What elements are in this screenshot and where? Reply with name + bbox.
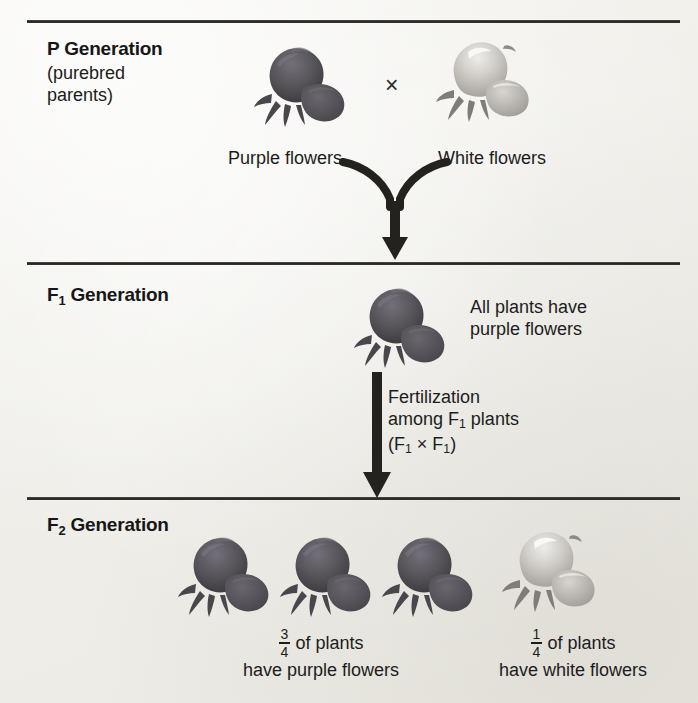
fraction-numerator: 3 <box>279 627 291 641</box>
f1-generation-heading: F1 Generation <box>47 284 169 308</box>
f1-heading-prefix: F <box>47 284 58 305</box>
fertilization-line3-b: ) <box>450 434 456 454</box>
fertilization-line3-a: (F <box>388 434 405 454</box>
flower-f2-white-1 <box>500 530 604 614</box>
f2-heading-suffix: Generation <box>65 514 168 535</box>
f2-generation-heading: F2 Generation <box>47 514 169 538</box>
fertilization-line3-mid: × F <box>412 434 444 454</box>
f2-white-trait-line: have white flowers <box>468 660 678 682</box>
p-generation-subtitle: (purebred parents) <box>47 63 125 107</box>
p-heading-prefix: P <box>47 38 59 59</box>
fertilization-line2-b: plants <box>466 409 519 429</box>
f2-purple-proportion-caption: 3 4 of plants have purple flowers <box>206 628 436 682</box>
f2-white-proportion-caption: 1 4 of plants have white flowers <box>468 628 678 682</box>
flower-p-purple <box>252 44 356 128</box>
f2-heading-prefix: F <box>47 514 58 535</box>
fraction-one-quarter: 1 4 <box>531 627 543 659</box>
label-f1-result: All plants have purple flowers <box>470 296 587 341</box>
fraction-denominator: 4 <box>531 645 543 659</box>
fertilization-line2-a: among F <box>388 409 459 429</box>
fraction-denominator: 4 <box>279 645 291 659</box>
f2-purple-trait-line: have purple flowers <box>206 660 436 682</box>
fraction-numerator: 1 <box>531 627 543 641</box>
divider-top <box>27 20 680 23</box>
fraction-three-quarters: 3 4 <box>279 627 291 659</box>
p-heading-suffix: Generation <box>59 38 162 59</box>
fertilization-line3-sub1: 1 <box>405 442 412 456</box>
label-fertilization-note: Fertilizationamong F1 plants(F1 × F1) <box>388 386 519 457</box>
flower-f1-purple <box>352 285 456 369</box>
flower-f2-purple-3 <box>380 534 484 618</box>
f2-white-fraction-line: 1 4 of plants <box>468 628 678 660</box>
flower-f2-purple-1 <box>176 534 280 618</box>
f2-purple-fraction-line: 3 4 of plants <box>206 628 436 660</box>
f1-heading-suffix: Generation <box>65 284 168 305</box>
flower-f2-purple-2 <box>278 534 382 618</box>
f2-purple-of-plants: of plants <box>295 633 363 655</box>
arrow-p-to-f1 <box>330 155 460 263</box>
fertilization-line2-subscript: 1 <box>459 418 466 432</box>
cross-symbol-p: × <box>385 72 398 99</box>
fertilization-line1: Fertilization <box>388 387 480 407</box>
f2-white-of-plants: of plants <box>547 633 615 655</box>
flower-p-white <box>434 40 538 124</box>
p-generation-heading: P Generation <box>47 38 163 60</box>
divider-bottom <box>27 497 680 500</box>
label-purple-flowers: Purple flowers <box>228 147 342 169</box>
